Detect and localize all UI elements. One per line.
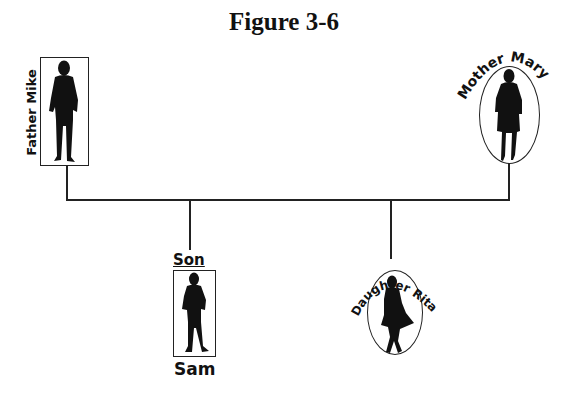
male-silhouette-icon <box>179 272 211 356</box>
svg-text:Mother Mary: Mother Mary <box>454 48 553 102</box>
son-label-bottom: Sam <box>174 359 215 379</box>
male-silhouette-icon <box>46 60 82 164</box>
son-label-top: Son <box>173 251 205 269</box>
daughter-label: Daughter Rita <box>348 277 440 318</box>
mother-label: Mother Mary <box>454 48 553 102</box>
mother-drop-line <box>508 163 510 199</box>
mother-label-arc: Mother Mary <box>452 40 562 110</box>
father-label: Father Mike <box>24 68 39 158</box>
daughter-label-arc: Daughter Rita <box>346 255 446 345</box>
marriage-line <box>66 199 510 201</box>
father-drop-line <box>66 165 68 201</box>
figure-title: Figure 3-6 <box>0 8 568 36</box>
daughter-drop-line <box>390 199 392 259</box>
son-drop-line <box>189 200 191 250</box>
svg-text:Daughter Rita: Daughter Rita <box>348 277 440 318</box>
